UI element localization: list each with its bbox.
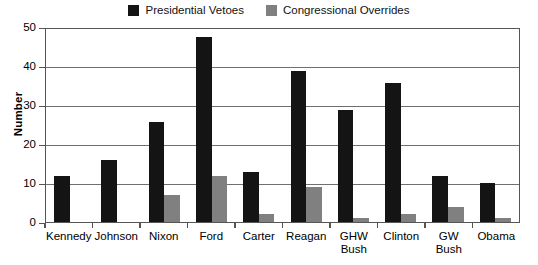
y-tick-label-50: 50	[23, 21, 36, 33]
x-tick-mark-icon	[187, 223, 188, 228]
bar-overrides	[212, 176, 228, 222]
y-tick-label-20: 20	[23, 138, 36, 150]
y-tick-label-30: 30	[23, 99, 36, 111]
bar-group	[424, 29, 471, 222]
x-axis-label-ghw-bush: GHWBush	[330, 230, 378, 264]
x-tick-cell	[378, 223, 426, 229]
x-tick-cell	[93, 223, 141, 229]
x-axis-labels: KennedyJohnsonNixonFordCarterReaganGHWBu…	[45, 230, 520, 264]
bar-group	[282, 29, 329, 222]
x-tick-mark-icon	[282, 223, 283, 228]
x-axis-label-ford: Ford	[188, 230, 236, 264]
x-tick-mark-icon	[92, 223, 93, 228]
x-axis-label-carter: Carter	[235, 230, 283, 264]
bar-vetoes	[149, 122, 165, 222]
legend-label-vetoes: Presidential Vetoes	[145, 4, 243, 16]
bar-vetoes	[196, 37, 212, 222]
bar-overrides	[306, 187, 322, 222]
x-axis-ticks	[45, 223, 520, 229]
bar-vetoes	[385, 83, 401, 222]
bar-vetoes	[101, 160, 117, 222]
x-tick-cell	[425, 223, 473, 229]
legend-swatch-overrides-icon	[266, 5, 277, 16]
x-tick-mark-icon	[234, 223, 235, 228]
x-tick-cell	[235, 223, 283, 229]
bar-vetoes	[480, 183, 496, 222]
x-axis-label-kennedy: Kennedy	[45, 230, 93, 264]
bar-overrides	[448, 207, 464, 222]
bar-overrides	[353, 218, 369, 222]
y-axis-ticks: 50 40 30 20 10 0	[0, 28, 45, 223]
bar-vetoes	[54, 176, 70, 222]
legend-swatch-vetoes-icon	[128, 5, 139, 16]
bar-group	[377, 29, 424, 222]
x-axis-label-johnson: Johnson	[93, 230, 141, 264]
bar-overrides	[259, 214, 275, 222]
y-tick-label-40: 40	[23, 60, 36, 72]
bar-group	[93, 29, 140, 222]
y-tick-label-10: 10	[23, 177, 36, 189]
bar-group	[330, 29, 377, 222]
bar-group	[188, 29, 235, 222]
x-tick-cell	[330, 223, 378, 229]
x-axis-label-reagan: Reagan	[283, 230, 331, 264]
legend-item-presidential-vetoes: Presidential Vetoes	[128, 4, 243, 16]
bar-vetoes	[432, 176, 448, 222]
x-axis-label-obama: Obama	[473, 230, 521, 264]
x-tick-cell	[45, 223, 93, 229]
x-tick-mark-icon	[377, 223, 378, 228]
x-axis-label-clinton: Clinton	[378, 230, 426, 264]
x-tick-mark-icon	[44, 223, 45, 228]
bar-group	[472, 29, 519, 222]
chart-legend: Presidential Vetoes Congressional Overri…	[0, 1, 538, 19]
x-tick-cell	[140, 223, 188, 229]
legend-label-overrides: Congressional Overrides	[283, 4, 410, 16]
plot-area	[45, 28, 520, 223]
x-tick-mark-icon	[139, 223, 140, 228]
x-tick-mark-icon	[472, 223, 473, 228]
bar-group	[46, 29, 93, 222]
bar-vetoes	[338, 110, 354, 222]
bar-vetoes	[243, 172, 259, 222]
x-axis-label-nixon: Nixon	[140, 230, 188, 264]
bar-group	[235, 29, 282, 222]
x-tick-mark-icon	[424, 223, 425, 228]
bar-overrides	[164, 195, 180, 222]
x-tick-cell	[188, 223, 236, 229]
x-tick-cell	[283, 223, 331, 229]
bars-layer	[46, 29, 519, 222]
x-tick-cell	[473, 223, 521, 229]
legend-item-congressional-overrides: Congressional Overrides	[266, 4, 410, 16]
bar-vetoes	[291, 71, 307, 222]
bar-group	[141, 29, 188, 222]
x-axis-label-gw-bush: GWBush	[425, 230, 473, 264]
bar-chart-figure: Presidential Vetoes Congressional Overri…	[0, 0, 538, 265]
bar-overrides	[495, 218, 511, 222]
x-tick-mark-icon	[329, 223, 330, 228]
bar-overrides	[401, 214, 417, 222]
y-tick-label-0: 0	[30, 216, 36, 228]
